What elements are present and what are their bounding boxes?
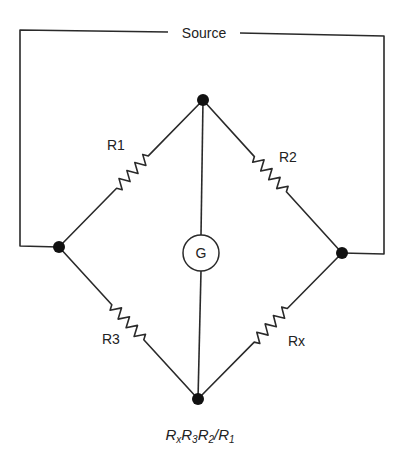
resistor-label-r3: R3: [102, 331, 120, 347]
source-wire-left: [20, 30, 168, 247]
resistor-r1-arm: [59, 100, 203, 247]
formula-sub-4: 1: [229, 434, 235, 445]
node-left: [53, 241, 65, 253]
resistor-rx-arm: [198, 253, 342, 399]
resistor-r2-arm: [203, 100, 342, 253]
wheatstone-bridge-diagram: Source G R1 R2 R3 Rx RxR3R2/R1: [0, 0, 400, 454]
resistor-r3-arm: [59, 247, 198, 399]
formula-term-2: R: [181, 426, 192, 443]
formula-term-4: /R: [213, 426, 229, 443]
balance-formula: RxR3R2/R1: [165, 426, 234, 445]
resistor-label-r1: R1: [107, 137, 125, 153]
node-right: [336, 247, 348, 259]
resistor-label-r2: R2: [279, 149, 297, 165]
formula-term-3: R: [198, 426, 209, 443]
node-bottom: [192, 393, 204, 405]
galvanometer-label: G: [196, 245, 207, 261]
node-top: [197, 94, 209, 106]
resistor-label-rx: Rx: [288, 333, 305, 349]
source-label: Source: [182, 25, 227, 41]
formula-term-1: R: [165, 426, 176, 443]
galvanometer-wire-top: [201, 100, 203, 235]
galvanometer-wire-bottom: [198, 271, 201, 399]
